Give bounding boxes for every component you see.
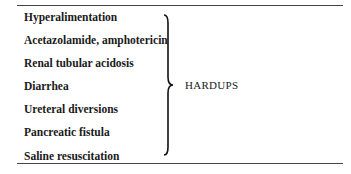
cause-item: Hyperalimentation (24, 10, 117, 24)
mnemonic-label: HARDUPS (185, 78, 238, 92)
bottom-rule (17, 163, 343, 164)
right-brace-icon (162, 13, 176, 157)
cause-item: Ureteral diversions (24, 102, 118, 116)
cause-item: Saline resuscitation (24, 149, 119, 163)
top-rule (17, 5, 343, 6)
cause-item: Acetazolamide, amphotericin (24, 33, 168, 47)
cause-item: Renal tubular acidosis (24, 56, 134, 70)
cause-item: Diarrhea (24, 79, 69, 93)
cause-item: Pancreatic fistula (24, 125, 110, 139)
